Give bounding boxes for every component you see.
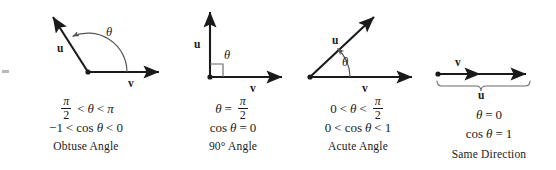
fraction-numerator: π [238, 95, 248, 107]
cosine-function: cos [210, 121, 227, 134]
same-direction-diagram: v u [422, 0, 556, 100]
acute-angle-label: Acute Angle [294, 140, 422, 152]
right-angle-condition: θ = π 2 [172, 98, 294, 118]
svg-text:v: v [128, 77, 134, 89]
obtuse-cosine-condition: −1 < cos θ < 0 [0, 118, 172, 137]
inequality-operator-1: < [340, 102, 347, 115]
cosine-operator-2: < [106, 121, 113, 134]
equals-operator: = [485, 108, 492, 121]
same-direction-caption: θ = 0 cos θ = 1 Same Direction [422, 104, 556, 160]
right-angle-label: 90° Angle [172, 140, 294, 152]
panel-right-angle: u v θ θ = π 2 cos θ = 0 90° Angle [172, 0, 294, 170]
fraction-denominator: 2 [238, 108, 248, 121]
theta-symbol: θ [88, 102, 94, 115]
svg-text:θ: θ [342, 55, 348, 69]
acute-diagram: u v θ [294, 0, 422, 100]
svg-text:u: u [194, 38, 201, 50]
cosine-function: cos [76, 121, 93, 134]
pi-symbol: π [107, 102, 114, 115]
svg-text:v: v [250, 82, 256, 94]
panel-obtuse-angle: u v θ π 2 < θ < π −1 < cos θ < [0, 0, 172, 170]
fraction-numerator: π [61, 95, 71, 107]
same-direction-angle-condition: θ = 0 [422, 104, 556, 124]
obtuse-angle-condition: π 2 < θ < π [0, 98, 172, 118]
obtuse-angle-label: Obtuse Angle [0, 140, 172, 152]
cosine-theta: θ [230, 121, 236, 134]
angle-value: 0 [496, 108, 503, 121]
figure-canvas: u v θ π 2 < θ < π −1 < cos θ < [0, 0, 556, 170]
acute-cosine-condition: 0 < cos θ < 1 [294, 118, 422, 137]
cosine-theta: θ [486, 127, 492, 140]
equals-operator: = [225, 102, 232, 115]
cosine-lower-bound: −1 [49, 121, 63, 134]
cosine-theta: θ [97, 121, 103, 134]
svg-text:u: u [478, 89, 485, 100]
obtuse-diagram: u v θ [0, 0, 172, 100]
cosine-equals-operator: = [495, 127, 502, 140]
cosine-function: cos [345, 121, 362, 134]
panel-acute-angle: u v θ 0 < θ < π 2 0 < cos θ < [294, 0, 422, 170]
pi-over-two-fraction: π 2 [238, 95, 248, 121]
inequality-operator-2: < [97, 102, 104, 115]
fraction-denominator: 2 [61, 108, 71, 121]
angle-lower-bound: 0 [330, 102, 337, 115]
svg-text:v: v [362, 82, 368, 94]
panel-same-direction: v u θ = 0 cos θ = 1 Same Direction [422, 0, 556, 170]
acute-angle-condition: 0 < θ < π 2 [294, 98, 422, 118]
cosine-upper-bound: 1 [385, 121, 392, 134]
pi-over-two-fraction: π 2 [61, 95, 71, 121]
theta-symbol: θ [215, 102, 221, 115]
svg-text:v: v [455, 56, 461, 68]
cosine-function: cos [466, 127, 483, 140]
cosine-upper-bound: 0 [116, 121, 123, 134]
svg-text:θ: θ [224, 48, 230, 62]
inequality-operator-1: < [77, 102, 84, 115]
pi-over-two-fraction: π 2 [373, 95, 383, 121]
theta-symbol: θ [350, 102, 356, 115]
cosine-equals-operator: = [239, 121, 246, 134]
fraction-denominator: 2 [373, 108, 383, 121]
cosine-operator-1: < [66, 121, 73, 134]
inequality-operator-2: < [359, 102, 366, 115]
acute-caption: 0 < θ < π 2 0 < cos θ < 1 Acute Angle [294, 98, 422, 152]
theta-symbol: θ [476, 108, 482, 121]
right-angle-diagram: u v θ [172, 0, 294, 100]
svg-text:θ: θ [106, 25, 112, 39]
svg-text:u: u [57, 42, 64, 54]
cosine-value: 1 [506, 127, 513, 140]
fraction-numerator: π [373, 95, 383, 107]
same-direction-cosine-condition: cos θ = 1 [422, 124, 556, 143]
svg-text:u: u [332, 34, 339, 46]
cosine-operator-1: < [334, 121, 341, 134]
obtuse-caption: π 2 < θ < π −1 < cos θ < 0 Obtuse Angle [0, 98, 172, 152]
cosine-theta: θ [365, 121, 371, 134]
cosine-operator-2: < [374, 121, 381, 134]
right-angle-cosine-condition: cos θ = 0 [172, 118, 294, 137]
cosine-value: 0 [250, 121, 257, 134]
right-angle-caption: θ = π 2 cos θ = 0 90° Angle [172, 98, 294, 152]
cosine-lower-bound: 0 [325, 121, 332, 134]
same-direction-label: Same Direction [422, 148, 556, 160]
